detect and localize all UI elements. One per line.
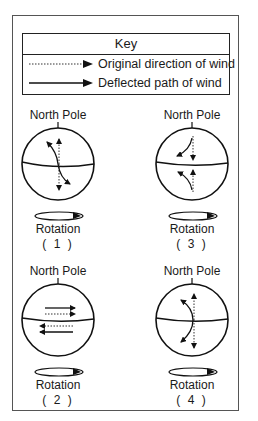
legend-key: Key Original direction of wind Deflected… (22, 33, 230, 95)
globe-diagram-4 (137, 278, 247, 366)
globe-diagram-3 (137, 122, 247, 210)
rotation-arrow-icon (137, 366, 247, 378)
rotation-arrow-icon (137, 210, 247, 222)
solid-arrow-icon (29, 78, 95, 88)
panel-number: ( 3 ) (137, 236, 247, 252)
dotted-arrow-icon (29, 59, 95, 69)
legend-label-original: Original direction of wind (98, 55, 235, 74)
north-pole-label: North Pole (137, 264, 247, 278)
globe-diagram-2 (3, 278, 113, 366)
globe-panel-1: North Pole Rotation ( 1 ) (3, 108, 113, 252)
globe-panel-2: North Pole Rotation ( 2 ) (3, 264, 113, 408)
north-pole-label: North Pole (137, 108, 247, 122)
rotation-label: Rotation (137, 222, 247, 236)
rotation-label: Rotation (137, 378, 247, 392)
panel-number: ( 4 ) (137, 392, 247, 408)
legend-item-original: Original direction of wind (23, 55, 229, 74)
globe-panel-3: North Pole Rotation ( 3 ) (137, 108, 247, 252)
panel-number: ( 1 ) (3, 236, 113, 252)
globe-diagram-1 (3, 122, 113, 210)
rotation-arrow-icon (3, 210, 113, 222)
legend-title: Key (23, 34, 229, 55)
legend-label-deflected: Deflected path of wind (98, 74, 222, 93)
rotation-label: Rotation (3, 222, 113, 236)
rotation-label: Rotation (3, 378, 113, 392)
north-pole-label: North Pole (3, 108, 113, 122)
rotation-arrow-icon (3, 366, 113, 378)
globe-panel-4: North Pole Rotation ( 4 ) (137, 264, 247, 408)
legend-item-deflected: Deflected path of wind (23, 74, 229, 93)
panel-number: ( 2 ) (3, 392, 113, 408)
north-pole-label: North Pole (3, 264, 113, 278)
